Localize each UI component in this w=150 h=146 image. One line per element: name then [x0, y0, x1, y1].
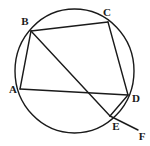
segment-be: [31, 31, 110, 116]
segment-cd: [108, 22, 128, 95]
vertex-label-e: E: [112, 121, 119, 132]
circumscribed-circle: [15, 9, 134, 133]
segment-ad: [20, 89, 128, 95]
vertex-label-a: A: [9, 84, 17, 95]
vertex-label-c: C: [103, 7, 111, 18]
segment-bc: [31, 22, 108, 31]
vertex-label-f: F: [139, 131, 146, 142]
geometry-figure: A B C D E F: [0, 0, 150, 146]
vertex-label-d: D: [132, 93, 140, 104]
segment-ab: [20, 31, 31, 89]
vertex-label-b: B: [21, 16, 28, 27]
